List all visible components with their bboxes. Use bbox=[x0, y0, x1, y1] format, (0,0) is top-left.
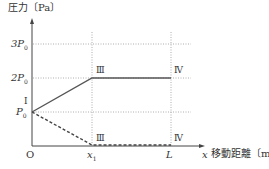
tick-subscript: 0 bbox=[23, 112, 27, 119]
chart-canvas bbox=[0, 0, 269, 169]
tick-text: 2P bbox=[11, 72, 24, 83]
tick-subscript: 1 bbox=[93, 155, 97, 162]
y-axis-label: 圧力〔Pa〕 bbox=[8, 3, 60, 13]
origin-label: O bbox=[26, 150, 34, 160]
point-label-III-lower: Ⅲ bbox=[96, 134, 105, 143]
tick-subscript: 0 bbox=[24, 78, 28, 85]
y-tick-2p0: 2P0 bbox=[11, 73, 28, 85]
x-axis-symbol: x bbox=[202, 150, 208, 160]
point-label-III-upper: Ⅲ bbox=[96, 66, 105, 75]
tick-subscript: 0 bbox=[24, 44, 28, 51]
x-axis-label: 移動距離〔m〕 bbox=[211, 149, 269, 159]
x-axis-arrow-icon bbox=[199, 144, 205, 148]
point-label-IV-lower: Ⅳ bbox=[174, 134, 183, 143]
y-tick-p0: P0 bbox=[16, 107, 27, 119]
point-label-IV-upper: Ⅳ bbox=[174, 66, 183, 75]
y-tick-3p0: 3P0 bbox=[11, 39, 28, 51]
y-axis-arrow-icon bbox=[30, 18, 34, 24]
point-label-I: I bbox=[24, 97, 28, 106]
tick-text: P bbox=[16, 106, 23, 117]
x-tick-x1: x1 bbox=[87, 150, 96, 162]
x-tick-L: L bbox=[166, 150, 173, 160]
series-upper-solid bbox=[32, 78, 171, 112]
tick-text: 3P bbox=[11, 38, 24, 49]
